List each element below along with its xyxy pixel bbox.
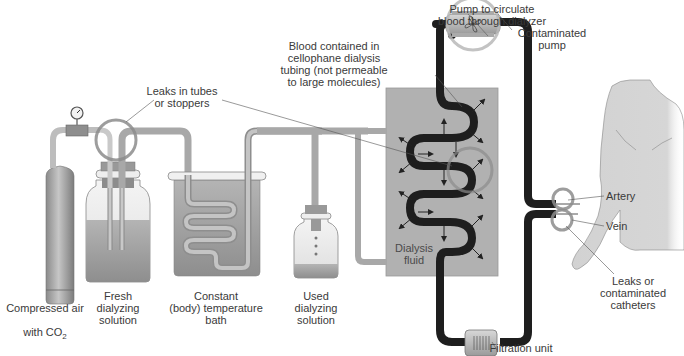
pressure-gauge-icon [71, 107, 83, 119]
patient-body [572, 80, 684, 269]
label-contaminated-pump: Contaminated pump [512, 27, 592, 51]
label-co2-subscript: 2 [62, 332, 66, 341]
leak-ring-stoppers [96, 120, 136, 160]
label-filtration-unit: Filtration unit [476, 342, 566, 354]
vein-catheter-ring [552, 210, 572, 230]
label-used-dialyzing: Used dialyzing solution [286, 290, 346, 326]
blood-tubing-return [500, 214, 556, 342]
label-dialysis-fluid: Dialysis fluid [384, 242, 444, 266]
label-compressed-air-line1: Compressed air [6, 302, 84, 314]
label-artery: Artery [606, 190, 635, 202]
label-constant-temp-bath: Constant (body) temperature bath [166, 290, 266, 326]
label-vein: Vein [606, 220, 627, 232]
compressed-air-cylinder [46, 166, 74, 304]
label-compressed-air-line2: with CO [23, 326, 62, 338]
fresh-solution-bottle [86, 162, 150, 282]
label-blood-contained: Blood contained in cellophane dialysis t… [272, 40, 396, 88]
gas-line [53, 118, 100, 168]
label-fresh-dialyzing: Fresh dialyzing solution [88, 290, 148, 326]
used-solution-bottle [294, 205, 338, 278]
artery-catheter-ring [553, 189, 573, 209]
label-leaks-catheters: Leaks or contaminated catheters [588, 275, 678, 311]
label-compressed-air: Compressed air with CO2 [0, 290, 90, 343]
label-pump-to-circulate: Pump to circulate blood through dialyzer [432, 3, 552, 27]
label-leaks-in-tubes: Leaks in tubes or stoppers [142, 85, 222, 109]
